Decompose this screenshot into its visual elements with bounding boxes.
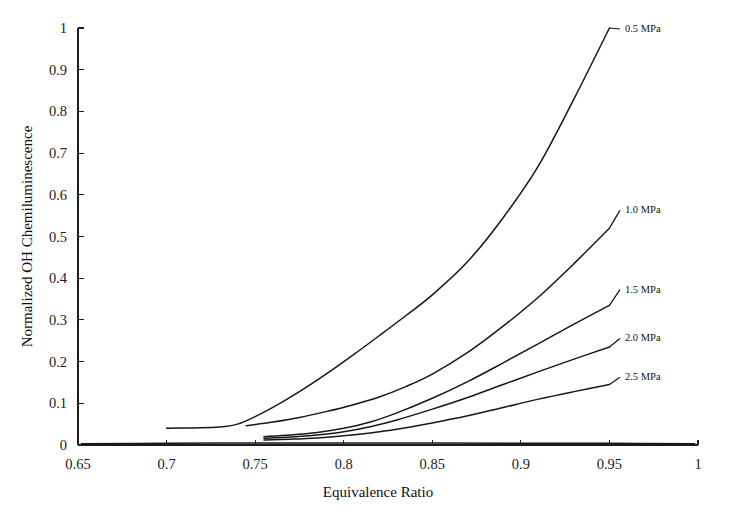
x-tick-label: 0.9	[512, 456, 530, 472]
baseline-curve	[82, 443, 695, 444]
x-tick-label: 0.75	[242, 456, 267, 472]
y-axis-title: Normalized OH Chemiluminescence	[19, 125, 35, 347]
x-tick-label: 0.65	[65, 456, 90, 472]
series-label: 2.5 MPa	[625, 371, 661, 382]
y-tick-label: 0.5	[49, 229, 67, 245]
series-label: 1.0 MPa	[625, 204, 661, 215]
y-tick-label: 0.1	[49, 395, 67, 411]
y-tick-label: 0.9	[49, 62, 67, 78]
y-tick-label: 0.3	[49, 312, 67, 328]
x-tick-label: 0.95	[597, 456, 622, 472]
chart-figure: 00.10.20.30.40.50.60.70.80.91 0.650.70.7…	[0, 0, 729, 523]
chart-canvas: 00.10.20.30.40.50.60.70.80.91 0.650.70.7…	[0, 0, 729, 523]
series-label: 2.0 MPa	[625, 332, 661, 343]
x-tick-label: 0.85	[420, 456, 445, 472]
y-tick-label: 0.8	[49, 103, 67, 119]
y-tick-label: 0.2	[49, 354, 67, 370]
y-tick-label: 0	[60, 437, 67, 453]
x-tick-label: 0.7	[158, 456, 176, 472]
series-label: 0.5 MPa	[625, 23, 661, 34]
y-tick-label: 0.4	[49, 270, 68, 286]
x-tick-label: 1	[694, 456, 701, 472]
x-axis-title: Equivalence Ratio	[323, 484, 433, 500]
y-tick-label: 0.7	[49, 145, 67, 161]
series-label: 1.5 MPa	[625, 284, 661, 295]
y-tick-label: 0.6	[49, 187, 67, 203]
y-tick-label: 1	[60, 20, 67, 36]
x-tick-label: 0.8	[335, 456, 353, 472]
